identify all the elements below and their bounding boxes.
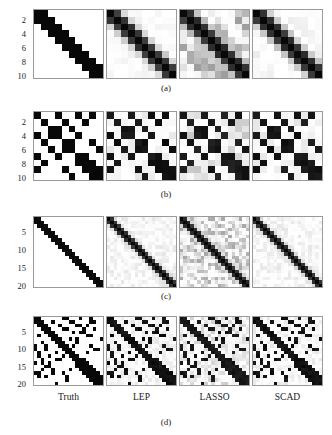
heatmap-d-scad bbox=[252, 316, 323, 386]
heatmap-c-truth bbox=[33, 216, 104, 288]
column-label-lep: LEP bbox=[106, 392, 177, 403]
column-label-scad: SCAD bbox=[252, 392, 323, 403]
heatmap-c-lasso bbox=[179, 216, 250, 288]
heatmap-b-scad bbox=[252, 111, 323, 181]
y-tick-c-5: 5 bbox=[22, 228, 26, 237]
y-tick-b-6: 6 bbox=[22, 145, 26, 154]
y-tick-c-15: 15 bbox=[18, 264, 27, 273]
heatmap-canvas-a-lep bbox=[107, 10, 176, 78]
y-tick-c-20: 20 bbox=[18, 282, 27, 291]
heatmap-b-lep bbox=[106, 111, 177, 181]
heatmap-canvas-d-lep bbox=[107, 317, 176, 385]
column-label-lasso: LASSO bbox=[179, 392, 250, 403]
subcaption-c: (c) bbox=[0, 291, 332, 301]
heatmap-canvas-a-lasso bbox=[180, 10, 249, 78]
heatmap-d-lep bbox=[106, 316, 177, 386]
heatmap-c-lep bbox=[106, 216, 177, 288]
y-tick-b-8: 8 bbox=[22, 159, 26, 168]
y-tick-c-10: 10 bbox=[18, 246, 27, 255]
y-tick-a-10: 10 bbox=[18, 71, 27, 80]
heatmap-canvas-d-lasso bbox=[180, 317, 249, 385]
heatmap-d-truth bbox=[33, 316, 104, 386]
heatmap-canvas-c-lasso bbox=[180, 217, 249, 287]
heatmap-b-truth bbox=[33, 111, 104, 181]
matrix-row-a: 246810 bbox=[0, 9, 332, 79]
heatmap-c-scad bbox=[252, 216, 323, 288]
subcaption-b: (b) bbox=[0, 189, 332, 199]
heatmap-canvas-c-truth bbox=[34, 217, 103, 287]
y-tick-d-15: 15 bbox=[18, 363, 27, 372]
y-axis-row-b: 246810 bbox=[0, 111, 30, 181]
heatmap-canvas-a-truth bbox=[34, 10, 103, 78]
matrix-row-b: 246810 bbox=[0, 111, 332, 181]
heatmap-a-lasso bbox=[179, 9, 250, 79]
matrix-row-d: 5101520 bbox=[0, 316, 332, 386]
heatmap-canvas-c-lep bbox=[107, 217, 176, 287]
column-label-truth: Truth bbox=[33, 392, 104, 403]
heatmap-canvas-b-truth bbox=[34, 112, 103, 180]
y-tick-b-10: 10 bbox=[18, 173, 27, 182]
heatmap-canvas-d-truth bbox=[34, 317, 103, 385]
heatmap-canvas-d-scad bbox=[253, 317, 322, 385]
y-tick-a-6: 6 bbox=[22, 43, 26, 52]
heatmap-canvas-b-lasso bbox=[180, 112, 249, 180]
y-tick-d-20: 20 bbox=[18, 380, 27, 389]
subcaption-d: (d) bbox=[0, 417, 332, 427]
y-axis-row-a: 246810 bbox=[0, 9, 30, 79]
heatmap-canvas-b-lep bbox=[107, 112, 176, 180]
heatmap-a-scad bbox=[252, 9, 323, 79]
heatmap-canvas-b-scad bbox=[253, 112, 322, 180]
y-tick-a-8: 8 bbox=[22, 57, 26, 66]
heatmap-a-truth bbox=[33, 9, 104, 79]
y-tick-d-5: 5 bbox=[22, 328, 26, 337]
heatmap-canvas-c-scad bbox=[253, 217, 322, 287]
heatmap-a-lep bbox=[106, 9, 177, 79]
heatmap-d-lasso bbox=[179, 316, 250, 386]
heatmap-b-lasso bbox=[179, 111, 250, 181]
subcaption-a: (a) bbox=[0, 83, 332, 93]
y-tick-b-2: 2 bbox=[22, 117, 26, 126]
y-tick-d-10: 10 bbox=[18, 345, 27, 354]
y-axis-row-d: 5101520 bbox=[0, 316, 30, 386]
y-tick-a-4: 4 bbox=[22, 29, 26, 38]
matrix-row-c: 5101520 bbox=[0, 216, 332, 288]
heatmap-canvas-a-scad bbox=[253, 10, 322, 78]
y-tick-b-4: 4 bbox=[22, 131, 26, 140]
figure-panel-grid: 246810 (a) 246810 (b) 5101520 (c) 510152… bbox=[0, 0, 332, 435]
y-axis-row-c: 5101520 bbox=[0, 216, 30, 288]
y-tick-a-2: 2 bbox=[22, 15, 26, 24]
